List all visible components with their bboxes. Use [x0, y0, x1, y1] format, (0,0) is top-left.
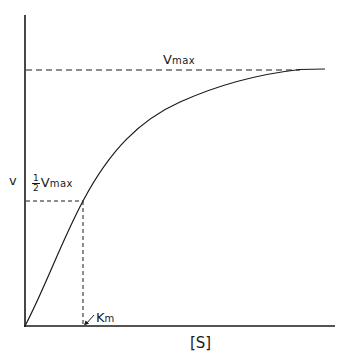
y-axis-label: v [9, 174, 17, 187]
km-label: Km [96, 311, 115, 324]
vmax-label: Vmax [163, 53, 195, 66]
michaelis-menten-curve [25, 69, 325, 326]
x-axis-label: [S] [190, 336, 211, 351]
one-half-fraction: 12 [32, 174, 40, 193]
half-vmax-label: 12Vmax [32, 174, 73, 193]
